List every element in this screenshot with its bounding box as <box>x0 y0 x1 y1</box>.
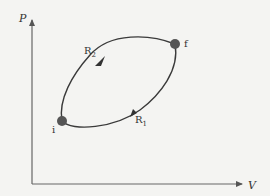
r2-label: R2 <box>84 45 96 59</box>
r2-arrow-icon <box>95 56 105 66</box>
point-f <box>170 39 180 49</box>
point-i <box>57 116 67 126</box>
axes <box>32 20 242 184</box>
point-i-label: i <box>52 124 55 135</box>
v-axis-label: V <box>248 179 257 192</box>
r1-label: R1 <box>135 114 147 128</box>
path-r2 <box>61 37 175 121</box>
path-r1 <box>62 44 176 127</box>
r1-label-sub: 1 <box>143 120 147 128</box>
p-axis-label: P <box>18 12 27 25</box>
pv-diagram: P V i f R2 R1 <box>0 0 270 196</box>
point-f-label: f <box>184 38 189 49</box>
r2-label-sub: 2 <box>92 51 96 59</box>
